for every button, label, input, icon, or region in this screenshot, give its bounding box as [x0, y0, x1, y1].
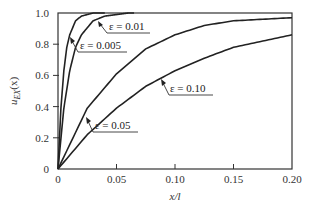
x-tick-label: 0.05	[107, 173, 127, 185]
x-tick-label: 0.20	[282, 173, 302, 185]
x-tick-label: 0.10	[165, 173, 185, 185]
chart: 00.050.100.150.20 00.20.40.60.81.0 x/l u…	[0, 0, 315, 216]
x-tick-label: 0	[55, 173, 61, 185]
y-tick-label: 0.8	[35, 38, 49, 50]
y-axis-ticks: 00.20.40.60.81.0	[35, 7, 59, 175]
y-tick-label: 0.6	[35, 69, 49, 81]
svg-text:ε = 0.01: ε = 0.01	[109, 20, 145, 32]
y-axis-title-arg: (x)	[7, 77, 20, 90]
y-tick-label: 0.2	[35, 132, 49, 144]
svg-text:ε = 0.05: ε = 0.05	[95, 119, 131, 131]
svg-text:uEX(x): uEX(x)	[7, 77, 22, 105]
y-tick-label: 1.0	[35, 7, 49, 19]
y-tick-label: 0	[44, 163, 50, 175]
svg-text:ε = 0.10: ε = 0.10	[170, 82, 206, 94]
annotation-eps-0.01: ε = 0.01	[98, 20, 150, 33]
y-tick-label: 0.4	[35, 101, 49, 113]
x-axis-ticks: 00.050.100.150.20	[55, 164, 302, 185]
svg-text:ε = 0.005: ε = 0.005	[80, 39, 122, 51]
annotation-eps-0.10: ε = 0.10	[161, 79, 213, 95]
x-tick-label: 0.15	[224, 173, 244, 185]
x-axis-title: x/l	[169, 190, 181, 202]
y-axis-title: uEX(x)	[7, 77, 22, 105]
